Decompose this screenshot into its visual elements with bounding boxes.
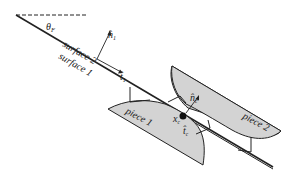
tangent-vector-label: t̂1 xyxy=(119,71,125,83)
contact-point-marker xyxy=(180,113,187,120)
fracture-surface-line xyxy=(16,15,273,167)
fracture-plane-diagram: θF surface 2 surface 1 n̂1 t̂1 piece 1 p… xyxy=(0,0,294,179)
angle-label: θF xyxy=(46,21,56,33)
normal-vector-label: n̂1 xyxy=(108,29,116,41)
piece-1-body xyxy=(108,101,204,165)
